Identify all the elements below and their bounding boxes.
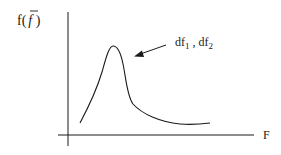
x-axis-label: F bbox=[263, 128, 270, 142]
y-axis-label: f(f ) bbox=[17, 13, 41, 29]
arrowhead-icon bbox=[134, 51, 144, 58]
annotation-arrow bbox=[134, 45, 166, 57]
annotation-label: df1 , df2 bbox=[175, 35, 213, 51]
f-distribution-diagram: f(f ) df1 , df2 F bbox=[0, 0, 281, 155]
density-curve bbox=[80, 46, 210, 124]
